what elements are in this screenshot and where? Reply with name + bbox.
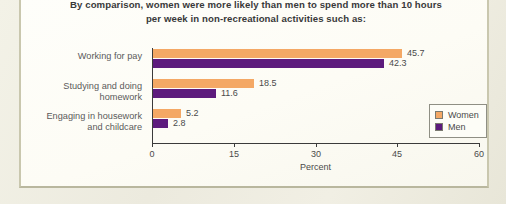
bar-men-housework-childcare xyxy=(153,119,168,128)
bar-value-men-housework-childcare: 2.8 xyxy=(173,118,186,128)
x-tick-30 xyxy=(316,143,317,147)
bar-value-women-working-for-pay: 45.7 xyxy=(407,48,425,58)
chart-title-line-1: By comparison, women were more likely th… xyxy=(21,0,491,12)
bar-women-working-for-pay xyxy=(153,49,402,58)
chart-title: By comparison, women were more likely th… xyxy=(21,0,491,26)
x-tick-label-45: 45 xyxy=(392,149,402,159)
bar-value-women-studying-homework: 18.5 xyxy=(259,78,277,88)
figure-page: By comparison, women were more likely th… xyxy=(0,0,506,204)
x-tick-label-0: 0 xyxy=(149,149,154,159)
bar-men-studying-homework xyxy=(153,89,216,98)
bar-women-housework-childcare xyxy=(153,109,181,118)
bar-men-working-for-pay xyxy=(153,59,384,68)
bar-value-men-studying-homework: 11.6 xyxy=(221,88,238,98)
legend-item-women: Women xyxy=(435,109,479,121)
x-tick-label-15: 15 xyxy=(229,149,239,159)
legend-label-women: Women xyxy=(448,110,479,120)
chart-legend: Women Men xyxy=(429,104,487,138)
chart-panel: By comparison, women were more likely th… xyxy=(19,0,489,188)
legend-item-men: Men xyxy=(435,121,479,133)
category-label-housework-childcare: Engaging in housework and childcare xyxy=(0,111,142,133)
x-tick-45 xyxy=(397,143,398,147)
chart-title-line-2: per week in non-recreational activities … xyxy=(21,12,491,26)
legend-label-men: Men xyxy=(448,122,466,132)
bar-value-men-working-for-pay: 42.3 xyxy=(389,58,407,68)
x-tick-label-30: 30 xyxy=(311,149,321,159)
x-tick-15 xyxy=(234,143,235,147)
bar-women-studying-homework xyxy=(153,79,254,88)
legend-swatch-women-icon xyxy=(435,111,443,119)
plot-area: 0 15 30 45 60 45.7 42.3 18.5 11.6 5.2 2.… xyxy=(152,48,479,143)
x-tick-0 xyxy=(152,143,153,147)
legend-swatch-men-icon xyxy=(435,123,443,131)
category-label-working-for-pay: Working for pay xyxy=(0,51,142,62)
bar-value-women-housework-childcare: 5.2 xyxy=(186,108,199,118)
category-label-studying-homework: Studying and doing homework xyxy=(0,81,142,103)
x-tick-label-60: 60 xyxy=(474,149,484,159)
x-tick-60 xyxy=(479,143,480,147)
x-axis-label: Percent xyxy=(152,162,479,172)
